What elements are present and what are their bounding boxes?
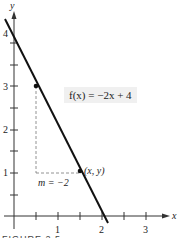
y-tick-4: 4: [3, 28, 8, 39]
point-label: (x, y): [84, 165, 105, 177]
y-axis-arrow-icon: [12, 11, 17, 19]
x-tick-3: 3: [143, 224, 148, 235]
y-tick-2: 2: [3, 124, 8, 135]
x-axis-label: x: [171, 210, 177, 221]
point-marker: [34, 84, 39, 89]
graph: 1 2 3 1 2 3 4 x y (x, y) m = −2: [0, 0, 178, 238]
slope-label: m = −2: [38, 177, 69, 188]
equation-label: f(x) = −2x + 4: [64, 87, 137, 103]
figure-caption: FIGURE 2.5: [2, 234, 61, 238]
y-tick-3: 3: [3, 81, 8, 92]
point-xy-marker: [78, 169, 83, 174]
x-axis: [4, 212, 170, 220]
function-line: [5, 19, 108, 223]
y-tick-1: 1: [3, 167, 8, 178]
x-tick-2: 2: [99, 224, 104, 235]
x-axis-arrow-icon: [162, 214, 170, 219]
y-axis-label: y: [9, 0, 15, 11]
